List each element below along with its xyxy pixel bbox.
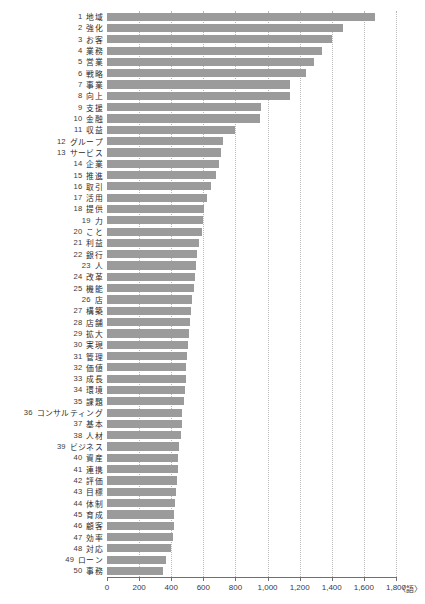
rank-number: 35 bbox=[74, 397, 83, 406]
category-word: 人 bbox=[95, 260, 103, 271]
category-label-row: 7事業 bbox=[0, 79, 103, 90]
x-axis-tick-label: 800 bbox=[229, 583, 242, 592]
category-word: 推進 bbox=[86, 170, 103, 181]
rank-number: 13 bbox=[57, 148, 66, 157]
bar bbox=[107, 205, 204, 213]
bar-row bbox=[107, 509, 396, 520]
x-axis-tick bbox=[139, 577, 140, 581]
bar-row bbox=[107, 124, 396, 135]
bar-row bbox=[107, 531, 396, 542]
x-axis-tick bbox=[235, 577, 236, 581]
bar bbox=[107, 522, 174, 530]
rank-number: 31 bbox=[74, 352, 83, 361]
bar-row bbox=[107, 418, 396, 429]
category-label-row: 32価値 bbox=[0, 362, 103, 373]
category-word: 顧客 bbox=[86, 520, 103, 531]
bar bbox=[107, 103, 261, 111]
category-word: 実現 bbox=[86, 339, 103, 350]
bar-row bbox=[107, 226, 396, 237]
rank-number: 38 bbox=[74, 431, 83, 440]
bar-row bbox=[107, 554, 396, 565]
category-word: サービス bbox=[70, 147, 103, 158]
bar-row bbox=[107, 249, 396, 260]
category-word: 評価 bbox=[86, 475, 103, 486]
x-axis-tick bbox=[364, 577, 365, 581]
category-label-row: 16取引 bbox=[0, 181, 103, 192]
category-labels: 1地域2強化3お客4業務5営業6戦略7事業8向上9支援10金融11収益12グルー… bbox=[0, 11, 103, 577]
bar-row bbox=[107, 56, 396, 67]
rank-number: 26 bbox=[82, 295, 91, 304]
bar bbox=[107, 295, 192, 303]
category-word: 育成 bbox=[86, 509, 103, 520]
rank-number: 24 bbox=[74, 272, 83, 281]
bar bbox=[107, 454, 178, 462]
category-word: ビジネス bbox=[70, 441, 103, 452]
bar-row bbox=[107, 407, 396, 418]
x-axis-tick-label: 400 bbox=[165, 583, 178, 592]
category-word: 利益 bbox=[86, 237, 103, 248]
rank-number: 28 bbox=[74, 318, 83, 327]
bar bbox=[107, 114, 260, 122]
bar-row bbox=[107, 305, 396, 316]
rank-number: 43 bbox=[74, 487, 83, 496]
x-axis-tick-label: 200 bbox=[132, 583, 145, 592]
rank-number: 50 bbox=[74, 566, 83, 575]
category-word: グループ bbox=[70, 136, 103, 147]
rank-number: 1 bbox=[78, 12, 82, 21]
x-axis-unit-label: 〈語〉 bbox=[398, 583, 422, 594]
bar-row bbox=[107, 34, 396, 45]
bar-row bbox=[107, 271, 396, 282]
category-label-row: 11収益 bbox=[0, 124, 103, 135]
bar bbox=[107, 92, 290, 100]
rank-number: 42 bbox=[74, 476, 83, 485]
bar bbox=[107, 465, 178, 473]
rank-number: 47 bbox=[74, 533, 83, 542]
bar-row bbox=[107, 520, 396, 531]
x-axis-tick-label: 1,200 bbox=[290, 583, 310, 592]
x-axis-tick bbox=[332, 577, 333, 581]
bar bbox=[107, 488, 176, 496]
x-axis-tick-label: 1,600 bbox=[354, 583, 374, 592]
category-label-row: 50事務 bbox=[0, 565, 103, 576]
rank-number: 39 bbox=[57, 442, 66, 451]
category-label-row: 44体制 bbox=[0, 497, 103, 508]
bar bbox=[107, 273, 195, 281]
category-word: 提供 bbox=[86, 203, 103, 214]
category-label-row: 8向上 bbox=[0, 90, 103, 101]
bar-row bbox=[107, 169, 396, 180]
category-word: 事務 bbox=[86, 565, 103, 576]
plot-area bbox=[107, 11, 396, 577]
category-word: 店 bbox=[95, 294, 103, 305]
bar-row bbox=[107, 68, 396, 79]
bar bbox=[107, 216, 203, 224]
category-word: 目標 bbox=[86, 486, 103, 497]
bar-row bbox=[107, 475, 396, 486]
bar bbox=[107, 182, 211, 190]
bar bbox=[107, 284, 194, 292]
category-word: 改革 bbox=[86, 271, 103, 282]
category-word: 管理 bbox=[86, 351, 103, 362]
bar bbox=[107, 544, 171, 552]
category-word: こと bbox=[86, 226, 103, 237]
bar bbox=[107, 556, 166, 564]
rank-number: 49 bbox=[65, 555, 74, 564]
rank-number: 17 bbox=[74, 193, 83, 202]
rank-number: 27 bbox=[74, 306, 83, 315]
rank-number: 11 bbox=[74, 125, 82, 134]
bar-row bbox=[107, 135, 396, 146]
bar-row bbox=[107, 441, 396, 452]
rank-number: 32 bbox=[74, 363, 83, 372]
rank-number: 19 bbox=[82, 216, 91, 225]
rank-number: 7 bbox=[78, 80, 82, 89]
bar-row bbox=[107, 237, 396, 248]
category-word: 効率 bbox=[86, 532, 103, 543]
category-word: 機能 bbox=[86, 283, 103, 294]
bar bbox=[107, 352, 187, 360]
rank-number: 40 bbox=[74, 453, 83, 462]
category-word: 戦略 bbox=[86, 68, 103, 79]
category-label-row: 19力 bbox=[0, 215, 103, 226]
bar bbox=[107, 35, 332, 43]
rank-number: 41 bbox=[74, 465, 83, 474]
rank-number: 29 bbox=[74, 329, 83, 338]
bar-row bbox=[107, 316, 396, 327]
